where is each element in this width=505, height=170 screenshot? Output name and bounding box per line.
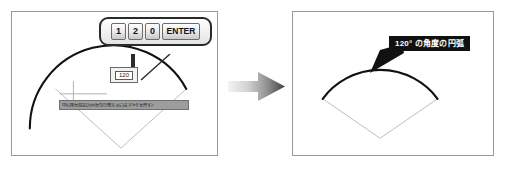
transition-arrow	[228, 71, 286, 102]
angle-annotation: 120° の角度の円弧	[389, 36, 470, 51]
key-enter[interactable]: ENTER	[162, 23, 200, 40]
key-0[interactable]: 0	[145, 23, 160, 40]
keypad-callout[interactable]: 1 2 0 ENTER	[99, 17, 212, 46]
construction-lines	[56, 89, 187, 148]
after-drawing	[293, 12, 493, 155]
key-2[interactable]: 2	[128, 23, 143, 40]
angle-input-value: 120	[115, 71, 133, 80]
wedge-radii	[323, 99, 438, 138]
angle-input[interactable]: 120	[110, 67, 138, 83]
panel-after	[292, 11, 494, 156]
angle-annotation-text: 120° の角度の円弧	[395, 40, 464, 48]
command-prompt: 中心角を指定(方向を切り替えるには [Ctrl] を押す):	[59, 100, 189, 110]
key-1[interactable]: 1	[111, 23, 126, 40]
command-prompt-text: 中心角を指定(方向を切り替えるには [Ctrl] を押す):	[62, 103, 154, 107]
figure-stage: 1 2 0 ENTER 120 中心角を指定(方向を切り替えるには [Ctrl]…	[0, 0, 505, 170]
arc-result	[323, 70, 438, 99]
